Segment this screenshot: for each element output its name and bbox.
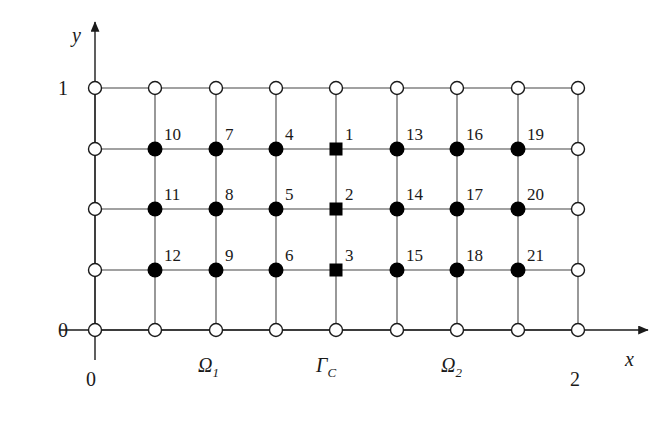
y-axis-tick-1: 1 (58, 78, 68, 98)
boundary-node (330, 82, 343, 95)
boundary-node (451, 82, 464, 95)
y-axis-label: y (72, 25, 81, 45)
boundary-node (89, 82, 102, 95)
node-label-11: 11 (164, 186, 180, 203)
interior-node (450, 142, 465, 157)
node-label-18: 18 (466, 247, 483, 264)
interior-node (209, 202, 224, 217)
interior-node (511, 263, 526, 278)
region-label-omega1: Ω1 (198, 355, 219, 379)
node-label-14: 14 (406, 186, 423, 203)
interior-node (269, 263, 284, 278)
region-label-gammaC: ΓC (316, 355, 336, 379)
node-label-20: 20 (527, 186, 544, 203)
node-label-21: 21 (527, 247, 544, 264)
interior-node (209, 263, 224, 278)
interior-node (390, 202, 405, 217)
interface-node (330, 143, 343, 156)
boundary-node (149, 324, 162, 337)
x-axis-label: x (625, 349, 634, 369)
boundary-node (89, 203, 102, 216)
interior-node (148, 263, 163, 278)
interior-node (390, 142, 405, 157)
boundary-node (512, 82, 525, 95)
region-label-omega2: Ω2 (441, 355, 462, 379)
x-axis-tick-0: 0 (86, 369, 96, 389)
node-label-4: 4 (285, 126, 294, 143)
boundary-node (89, 264, 102, 277)
node-label-7: 7 (225, 126, 234, 143)
y-axis-tick-0: 0 (58, 320, 68, 340)
node-label-3: 3 (345, 247, 354, 264)
axis-lines (60, 22, 648, 360)
interior-node (269, 142, 284, 157)
boundary-node (572, 143, 585, 156)
node-label-19: 19 (527, 126, 544, 143)
boundary-node (451, 324, 464, 337)
interior-node (148, 202, 163, 217)
node-label-17: 17 (466, 186, 483, 203)
node-label-5: 5 (285, 186, 294, 203)
boundary-node (149, 82, 162, 95)
boundary-node (512, 324, 525, 337)
boundary-node (210, 82, 223, 95)
node-label-12: 12 (164, 247, 181, 264)
node-label-9: 9 (225, 247, 234, 264)
node-label-10: 10 (164, 126, 181, 143)
interior-node (209, 142, 224, 157)
node-label-15: 15 (406, 247, 423, 264)
boundary-node (572, 324, 585, 337)
boundary-node (391, 324, 404, 337)
boundary-node (572, 203, 585, 216)
interior-node (148, 142, 163, 157)
node-label-6: 6 (285, 247, 294, 264)
interface-node (330, 203, 343, 216)
node-label-13: 13 (406, 126, 423, 143)
boundary-node (270, 324, 283, 337)
interior-node (450, 263, 465, 278)
x-axis-tick-2: 2 (570, 369, 580, 389)
grid-figure: y x 1 0 0 2 Ω1ΓCΩ2 123456789101112131415… (0, 0, 660, 426)
boundary-node (330, 324, 343, 337)
node-label-2: 2 (345, 186, 354, 203)
interior-node (511, 202, 526, 217)
interior-node (450, 202, 465, 217)
boundary-node (572, 264, 585, 277)
interior-node (390, 263, 405, 278)
node-label-8: 8 (225, 186, 234, 203)
boundary-node (270, 82, 283, 95)
interior-node (511, 142, 526, 157)
node-label-16: 16 (466, 126, 483, 143)
interface-node (330, 264, 343, 277)
boundary-node (210, 324, 223, 337)
node-label-1: 1 (345, 126, 354, 143)
boundary-node (391, 82, 404, 95)
boundary-node (572, 82, 585, 95)
boundary-node (89, 143, 102, 156)
interior-node (269, 202, 284, 217)
boundary-node (89, 324, 102, 337)
